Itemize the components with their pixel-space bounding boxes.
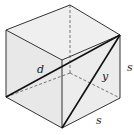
label-s-right: s [127,61,133,74]
label-y: y [101,70,109,83]
label-s-bottom: s [96,114,102,127]
cube-svg: d y s s [0,0,134,135]
cube-diagram: d y s s [0,0,134,135]
label-d: d [37,63,44,76]
